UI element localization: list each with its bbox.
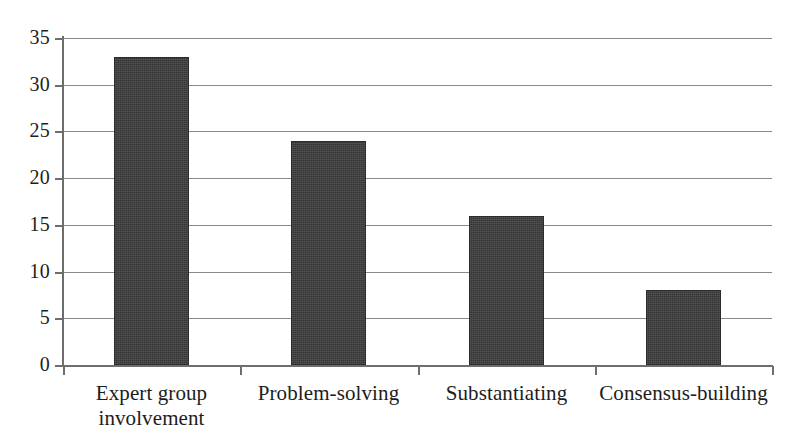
category-label-line1: Substantiating [418, 381, 595, 406]
category-label-line1: Expert group [63, 381, 240, 406]
y-axis-tick-label: 25 [0, 120, 50, 140]
bar-chart-figure: 35302520151050 Expert groupinvolvementPr… [0, 0, 800, 445]
y-axis-tick-label: 30 [0, 74, 50, 94]
category-label-line1: Consensus-building [595, 381, 772, 406]
bar[interactable] [114, 57, 189, 365]
x-axis-category-label: Substantiating [418, 381, 595, 406]
bar[interactable] [469, 216, 544, 365]
x-axis-separator-tick [63, 366, 65, 375]
x-axis-separator-tick [240, 366, 242, 375]
y-axis-tick-label: 35 [0, 27, 50, 47]
x-axis-category-label: Problem-solving [240, 381, 417, 406]
x-axis-category-label: Expert groupinvolvement [63, 381, 240, 431]
bar[interactable] [646, 290, 721, 365]
category-label-line1: Problem-solving [240, 381, 417, 406]
x-axis-category-label: Consensus-building [595, 381, 772, 406]
x-axis-separator-tick [772, 366, 774, 375]
y-axis-tick-label: 0 [0, 354, 50, 374]
bar[interactable] [291, 141, 366, 365]
y-axis-tick-label: 10 [0, 261, 50, 281]
y-axis-tick-label: 5 [0, 307, 50, 327]
y-axis-tick-label: 15 [0, 214, 50, 234]
category-label-line2: involvement [63, 406, 240, 431]
x-axis-separator-tick [595, 366, 597, 375]
plot-area [63, 38, 772, 365]
y-axis-tick-label: 20 [0, 167, 50, 187]
x-axis-separator-tick [418, 366, 420, 375]
